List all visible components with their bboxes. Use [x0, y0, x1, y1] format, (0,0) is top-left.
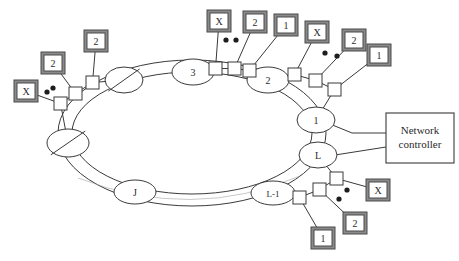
ellipsis-top: [223, 37, 238, 42]
terminal-2-topright[interactable]: 2: [342, 29, 366, 51]
terminal-1-top-label: 1: [284, 20, 289, 31]
controller-links: [330, 124, 386, 155]
ellipsis-left-dot-0: [44, 89, 49, 94]
node-3-label: 3: [191, 67, 196, 78]
terminal-1-bottom-label: 1: [321, 233, 326, 244]
tap-right-b[interactable]: [309, 74, 322, 87]
terminal-x-top[interactable]: X: [207, 10, 231, 32]
tap-left-a[interactable]: [54, 97, 67, 110]
ellipsis-bottom: [336, 187, 349, 201]
node-2-label: 2: [266, 75, 271, 86]
terminal-2-bottom[interactable]: 2: [343, 212, 367, 234]
terminal-x-bottom-label: X: [374, 185, 382, 196]
terminal-x-top-label: X: [215, 16, 223, 27]
node-1-label: 1: [314, 115, 319, 126]
ellipsis-top-dot-1: [233, 37, 238, 42]
terminal-2-upperleft-label: 2: [94, 36, 99, 47]
terminal-2-upperleft[interactable]: 2: [84, 30, 108, 52]
network-controller-label-line2: controller: [399, 138, 442, 150]
terminal-x-topright-label: X: [313, 27, 321, 38]
tap-top-a[interactable]: [209, 62, 222, 75]
terminal-1-bottom[interactable]: 1: [311, 227, 335, 249]
network-controller[interactable]: Network controller: [386, 113, 454, 163]
terminal-1-topright[interactable]: 1: [367, 44, 391, 66]
node-1[interactable]: 1: [297, 107, 335, 133]
tap-right-c[interactable]: [328, 83, 341, 96]
tap-bot-c[interactable]: [330, 172, 343, 185]
node-L-1-label: L-1: [267, 189, 280, 199]
terminal-x-bottom[interactable]: X: [366, 179, 390, 201]
terminal-x-left-label: X: [22, 86, 30, 97]
diagram-canvas: 321LL-1J X22X21X21X21 Network controller: [0, 0, 459, 261]
ellipsis-top-dot-0: [223, 37, 228, 42]
network-ring-diagram: 321LL-1J X22X21X21X21 Network controller: [0, 0, 459, 261]
terminal-2-left[interactable]: 2: [41, 52, 65, 74]
terminal-1-topright-label: 1: [377, 50, 382, 61]
terminal-x-topright[interactable]: X: [305, 21, 329, 43]
node-L-1[interactable]: L-1: [251, 181, 295, 205]
terminal-2-bottom-label: 2: [353, 218, 358, 229]
tap-top-c[interactable]: [243, 64, 256, 77]
ellipsis-left-dot-1: [50, 85, 55, 90]
ellipsis-topright: [322, 50, 339, 58]
terminal-2-top[interactable]: 2: [243, 11, 267, 33]
controller-link-node1: [330, 124, 386, 133]
tap-right-a[interactable]: [288, 68, 301, 81]
terminal-2-top-label: 2: [253, 17, 258, 28]
ellipsis-bottom-dot-1: [336, 196, 341, 201]
ellipsis-bottom-dot-0: [344, 187, 349, 192]
tap-left-b[interactable]: [69, 87, 82, 100]
ellipsis-topright-dot-0: [322, 50, 327, 55]
slashed-node-top: [105, 67, 143, 93]
terminal-2-topright-label: 2: [352, 35, 357, 46]
tap-bot-a[interactable]: [293, 191, 306, 204]
ellipsis-left: [44, 85, 55, 94]
tap-top-b[interactable]: [228, 62, 241, 75]
tap-left-c[interactable]: [86, 76, 99, 89]
tap-bot-b[interactable]: [313, 183, 326, 196]
ring-node-group: 321LL-1J: [114, 59, 337, 205]
node-J-label: J: [133, 187, 137, 198]
slashed-node-left: [47, 129, 89, 157]
controller-link-nodeL: [335, 147, 386, 155]
terminal-1-top[interactable]: 1: [274, 14, 298, 36]
node-L[interactable]: L: [299, 142, 337, 168]
node-J[interactable]: J: [114, 180, 156, 204]
node-3[interactable]: 3: [172, 59, 214, 85]
node-L-label: L: [315, 150, 321, 161]
network-controller-label-line1: Network: [401, 124, 440, 136]
terminal-x-left[interactable]: X: [14, 80, 38, 102]
ellipsis-topright-dot-1: [334, 53, 339, 58]
terminal-2-left-label: 2: [51, 58, 56, 69]
